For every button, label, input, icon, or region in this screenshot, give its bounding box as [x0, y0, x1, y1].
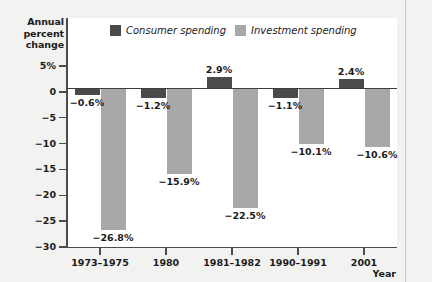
page-divider [405, 0, 406, 282]
x-axis-tick-mark [165, 248, 166, 255]
chart-legend: Consumer spending Investment spending [110, 25, 357, 36]
bar-value-label: −0.6% [70, 97, 104, 108]
x-axis-category-label: 2001 [351, 257, 377, 268]
y-axis-title: Annual percent change [6, 16, 64, 51]
y-axis-tick-mark [59, 117, 67, 118]
legend-label-consumer-spending: Consumer spending [126, 25, 226, 36]
x-axis-tick-mark [231, 248, 232, 255]
y-axis-tick-mark [59, 195, 67, 196]
bar-value-label: −26.8% [93, 232, 134, 243]
y-axis-title-line-1: Annual [6, 16, 64, 28]
bar-value-label: −10.6% [357, 149, 398, 160]
bar [207, 77, 232, 88]
legend-swatch-consumer-spending [110, 25, 121, 36]
y-axis-tick-label: −25 [22, 215, 56, 226]
y-axis-tick-mark [59, 246, 67, 247]
y-axis-tick-label: −30 [22, 241, 56, 252]
bar [233, 88, 258, 208]
y-axis-tick-label: 5% [22, 60, 56, 71]
chart-figure: Annual percent change 5%0−5−10−15−20−25−… [0, 0, 432, 282]
x-axis-title: Year [372, 268, 396, 279]
x-axis-category-label: 1990–1991 [269, 257, 327, 268]
bar-value-label: −1.1% [268, 100, 302, 111]
y-axis-tick-label: −15 [22, 163, 56, 174]
y-axis-tick-mark [59, 65, 67, 66]
bar-value-label: 2.9% [206, 64, 232, 75]
bar-value-label: −1.2% [136, 100, 170, 111]
x-axis-category-label: 1981–1982 [203, 257, 261, 268]
y-axis-tick-mark [59, 91, 67, 92]
bar-value-label: −22.5% [225, 210, 266, 221]
y-axis-tick-label: −5 [22, 112, 56, 123]
bar-value-label: −10.1% [291, 146, 332, 157]
y-axis-title-line-3: change [6, 39, 64, 51]
y-axis-tick-mark [59, 143, 67, 144]
y-axis-tick-label: −10 [22, 138, 56, 149]
y-axis-line [66, 18, 68, 248]
bar [101, 88, 126, 230]
bar [273, 88, 298, 98]
bar [167, 88, 192, 174]
bar-value-label: −15.9% [159, 176, 200, 187]
bar [299, 88, 324, 144]
bar [339, 79, 364, 88]
legend-item-consumer-spending[interactable]: Consumer spending [110, 25, 226, 36]
bar-value-label: 2.4% [338, 66, 364, 77]
bar [141, 88, 166, 98]
legend-swatch-investment-spending [235, 25, 246, 36]
x-axis-category-label: 1980 [153, 257, 179, 268]
y-axis-tick-label: −20 [22, 189, 56, 200]
legend-label-investment-spending: Investment spending [251, 25, 357, 36]
y-axis-title-line-2: percent [6, 28, 64, 40]
x-axis-tick-mark [297, 248, 298, 255]
y-axis-tick-mark [59, 220, 67, 221]
y-axis-tick-mark [59, 169, 67, 170]
y-axis-tick-label: 0 [22, 86, 56, 97]
x-axis-tick-mark [363, 248, 364, 255]
zero-baseline [67, 88, 397, 89]
x-axis-category-label: 1973–1975 [71, 257, 129, 268]
x-axis-tick-mark [99, 248, 100, 255]
bar [365, 88, 390, 147]
legend-item-investment-spending[interactable]: Investment spending [235, 25, 357, 36]
